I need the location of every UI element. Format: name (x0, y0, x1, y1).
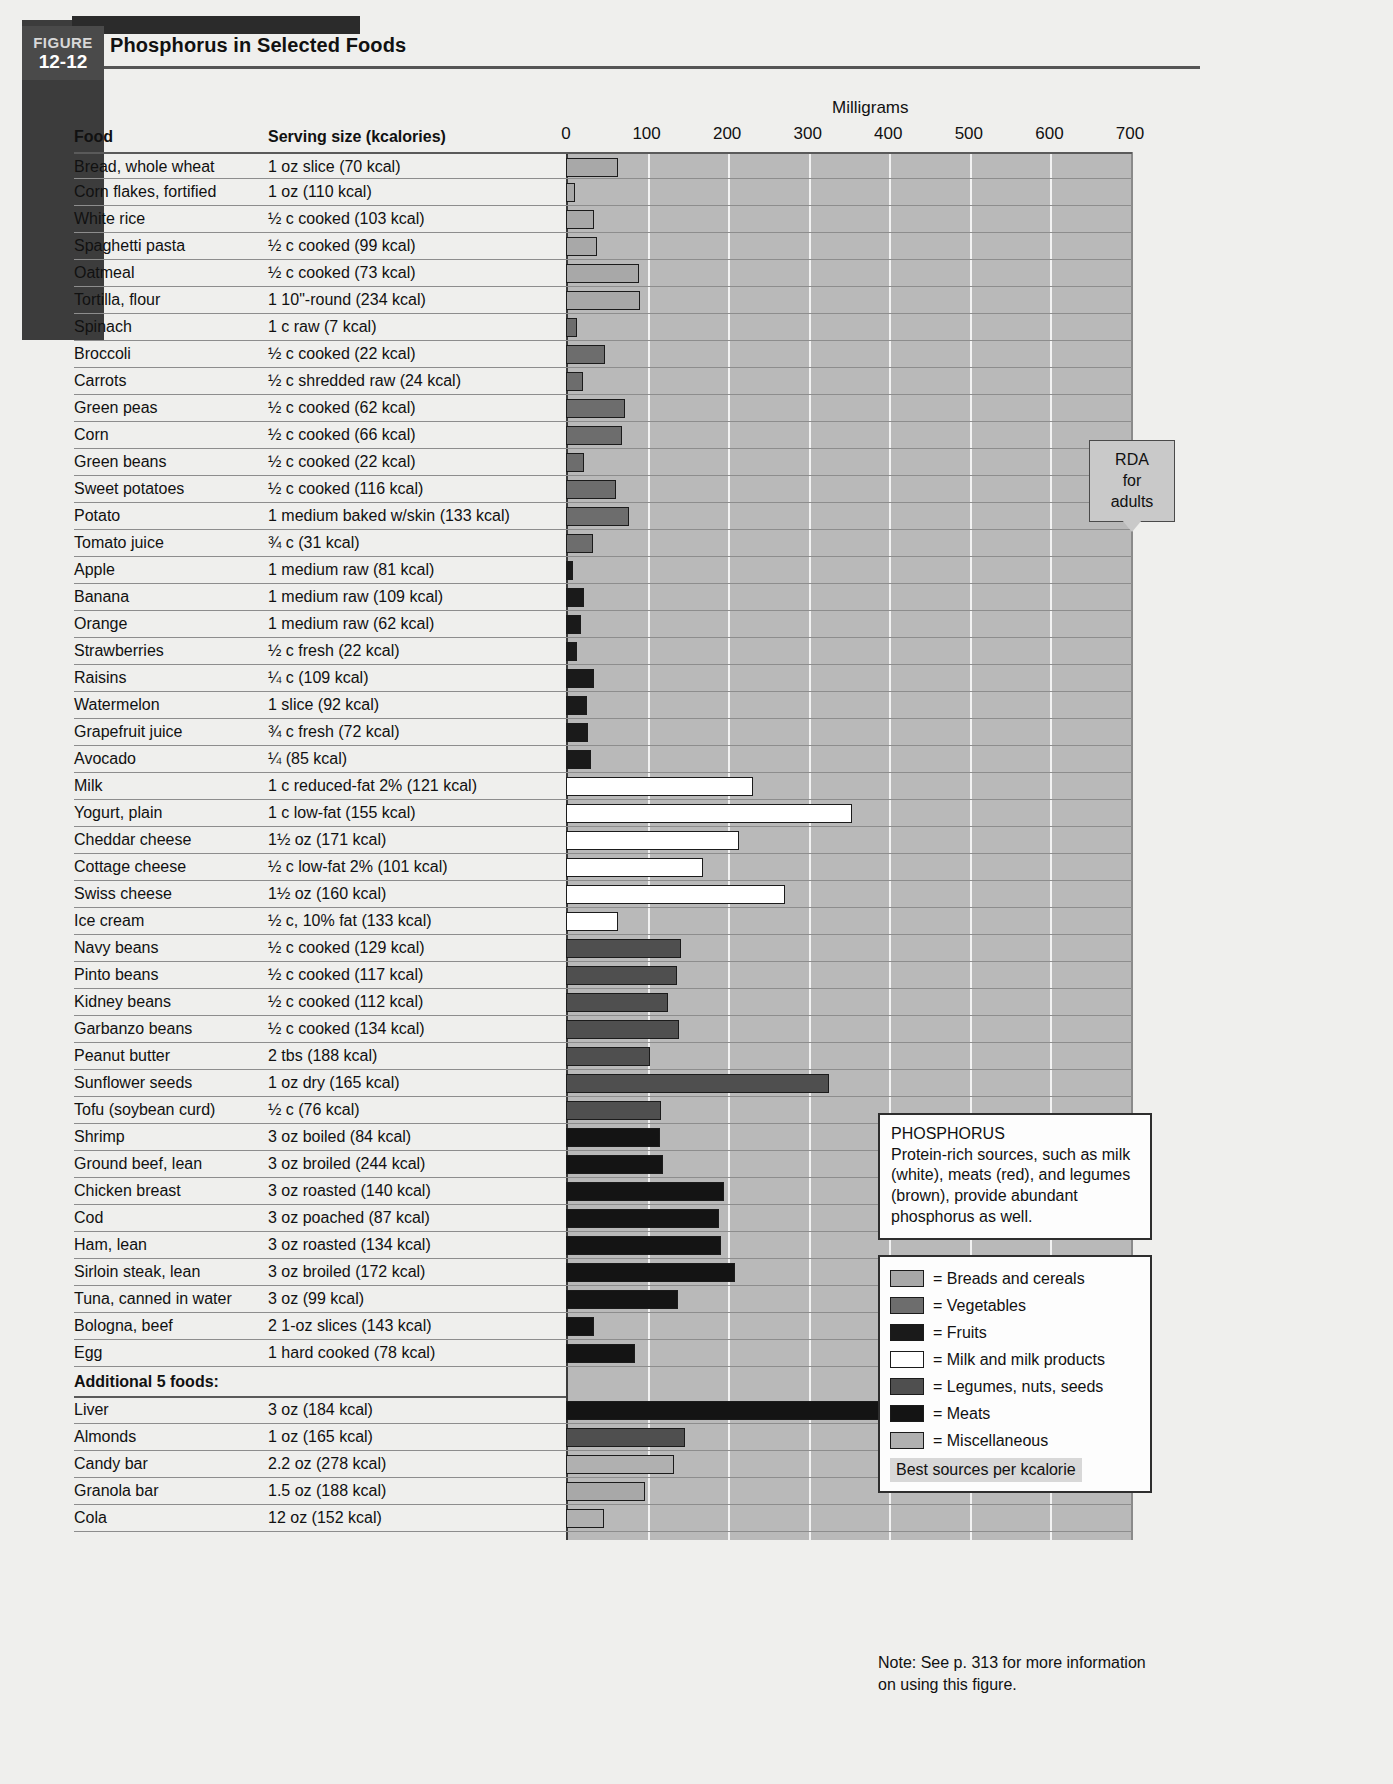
table-row: Navy beans½ c cooked (129 kcal) (74, 935, 1132, 962)
table-row: Green peas½ c cooked (62 kcal) (74, 395, 1132, 422)
data-bar (566, 804, 852, 823)
serving-size: 1 medium raw (62 kcal) (268, 615, 564, 633)
x-tick-500: 500 (955, 124, 983, 144)
food-name: Kidney beans (74, 993, 264, 1011)
legend-label: = Vegetables (933, 1297, 1026, 1315)
data-bar (566, 291, 640, 310)
data-bar (566, 1128, 660, 1147)
rda-line-1: RDA (1090, 449, 1174, 470)
serving-size: 3 oz (99 kcal) (268, 1290, 564, 1308)
food-name: Spaghetti pasta (74, 237, 264, 255)
serving-size: 1 medium baked w/skin (133 kcal) (268, 507, 564, 525)
serving-size: ½ c cooked (129 kcal) (268, 939, 564, 957)
x-tick-600: 600 (1035, 124, 1063, 144)
figure-title: Phosphorus in Selected Foods (110, 34, 406, 57)
serving-size: 3 oz (184 kcal) (268, 1401, 564, 1419)
serving-size: ¾ c (31 kcal) (268, 534, 564, 552)
data-bar (566, 264, 639, 283)
data-bar (566, 885, 785, 904)
table-row: Spaghetti pasta½ c cooked (99 kcal) (74, 233, 1132, 260)
food-name: Egg (74, 1344, 264, 1362)
legend-item-breads: = Breads and cereals (890, 1265, 1140, 1292)
food-name: Ice cream (74, 912, 264, 930)
table-row: Tortilla, flour1 10"-round (234 kcal) (74, 287, 1132, 314)
food-name: Watermelon (74, 696, 264, 714)
food-name: Sweet potatoes (74, 480, 264, 498)
food-name: Pinto beans (74, 966, 264, 984)
serving-size: ¾ c fresh (72 kcal) (268, 723, 564, 741)
data-bar (566, 345, 605, 364)
rda-line-2: for (1090, 470, 1174, 491)
serving-size: 1 c raw (7 kcal) (268, 318, 564, 336)
table-row: White rice½ c cooked (103 kcal) (74, 206, 1132, 233)
serving-size: 2 tbs (188 kcal) (268, 1047, 564, 1065)
table-row: Potato1 medium baked w/skin (133 kcal) (74, 503, 1132, 530)
food-name: Almonds (74, 1428, 264, 1446)
table-row: Tomato juice¾ c (31 kcal) (74, 530, 1132, 557)
food-name: Carrots (74, 372, 264, 390)
figure-tab: FIGURE 12-12 (22, 26, 104, 80)
table-row: Milk1 c reduced-fat 2% (121 kcal) (74, 773, 1132, 800)
legend-swatch-fruits (890, 1324, 924, 1341)
serving-size: ½ c fresh (22 kcal) (268, 642, 564, 660)
axis-label-milligrams: Milligrams (832, 98, 909, 118)
serving-size: 1 medium raw (81 kcal) (268, 561, 564, 579)
legend-item-legumes: = Legumes, nuts, seeds (890, 1373, 1140, 1400)
data-bar (566, 561, 573, 580)
data-bar (566, 1509, 604, 1528)
serving-size: ½ c shredded raw (24 kcal) (268, 372, 564, 390)
legend-swatch-vegetables (890, 1297, 924, 1314)
table-row: Ice cream½ c, 10% fat (133 kcal) (74, 908, 1132, 935)
serving-size: 3 oz poached (87 kcal) (268, 1209, 564, 1227)
data-bar (566, 1344, 635, 1363)
data-bar (566, 453, 584, 472)
column-header-food: Food (74, 128, 113, 146)
data-bar (566, 1209, 719, 1228)
food-name: Ground beef, lean (74, 1155, 264, 1173)
data-bar (566, 480, 616, 499)
table-row: Garbanzo beans½ c cooked (134 kcal) (74, 1016, 1132, 1043)
food-name: Granola bar (74, 1482, 264, 1500)
food-name: Tomato juice (74, 534, 264, 552)
table-row: Cottage cheese½ c low-fat 2% (101 kcal) (74, 854, 1132, 881)
serving-size: ½ c cooked (62 kcal) (268, 399, 564, 417)
table-row: Grapefruit juice¾ c fresh (72 kcal) (74, 719, 1132, 746)
food-name: White rice (74, 210, 264, 228)
data-bar (566, 210, 594, 229)
table-row: Carrots½ c shredded raw (24 kcal) (74, 368, 1132, 395)
table-row: Avocado¼ (85 kcal) (74, 746, 1132, 773)
serving-size: 1 c reduced-fat 2% (121 kcal) (268, 777, 564, 795)
table-row: Cola12 oz (152 kcal) (74, 1505, 1132, 1532)
rda-pointer (1122, 520, 1142, 532)
top-decor-band (72, 16, 360, 34)
table-row: Green beans½ c cooked (22 kcal) (74, 449, 1132, 476)
food-name: Banana (74, 588, 264, 606)
food-name: Sunflower seeds (74, 1074, 264, 1092)
serving-size: 1½ oz (160 kcal) (268, 885, 564, 903)
x-tick-400: 400 (874, 124, 902, 144)
table-row: Corn½ c cooked (66 kcal) (74, 422, 1132, 449)
serving-size: ½ c (76 kcal) (268, 1101, 564, 1119)
data-bar (566, 858, 703, 877)
legend-label: = Meats (933, 1405, 990, 1423)
data-bar (566, 588, 584, 607)
data-bar (566, 723, 588, 742)
serving-size: 2 1-oz slices (143 kcal) (268, 1317, 564, 1335)
serving-size: ½ c cooked (103 kcal) (268, 210, 564, 228)
legend-swatch-legumes (890, 1378, 924, 1395)
food-name: Tortilla, flour (74, 291, 264, 309)
serving-size: 1 medium raw (109 kcal) (268, 588, 564, 606)
data-bar (566, 1455, 674, 1474)
data-bar (566, 426, 622, 445)
serving-size: ½ c cooked (66 kcal) (268, 426, 564, 444)
data-bar (566, 669, 594, 688)
data-bar (566, 237, 597, 256)
chart-legend: = Breads and cereals= Vegetables= Fruits… (878, 1255, 1152, 1493)
data-bar (566, 158, 618, 177)
serving-size: 1 oz slice (70 kcal) (268, 158, 564, 176)
food-name: Bread, whole wheat (74, 158, 264, 176)
data-bar (566, 912, 618, 931)
serving-size: ½ c cooked (99 kcal) (268, 237, 564, 255)
data-bar (566, 1155, 663, 1174)
legend-swatch-meats (890, 1405, 924, 1422)
